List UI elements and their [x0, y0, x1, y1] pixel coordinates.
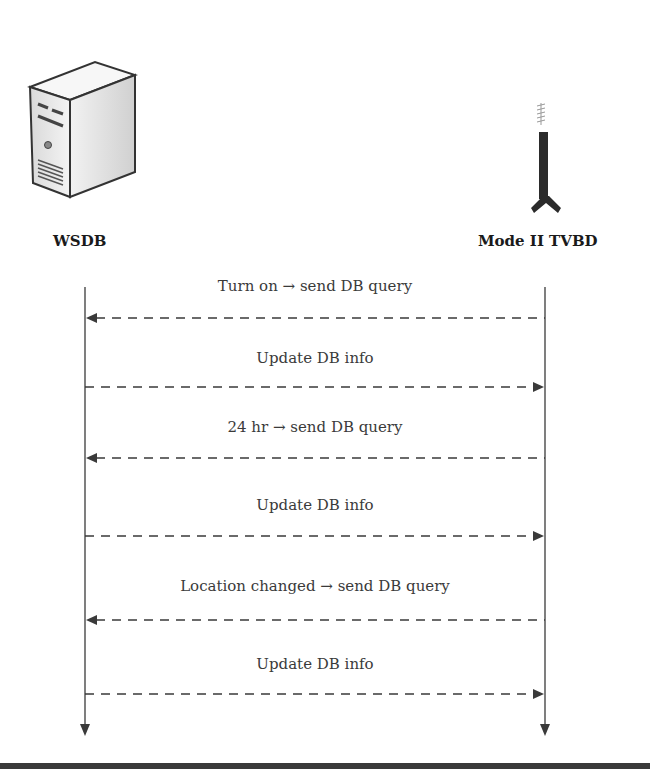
actor-label-wsdb: WSDB	[53, 232, 106, 250]
message-arrow-5	[86, 615, 545, 625]
message-label-2: Update DB info	[85, 349, 545, 367]
message-arrow-4	[85, 531, 544, 541]
bottom-divider	[0, 763, 650, 769]
actor-label-tvbd: Mode II TVBD	[478, 232, 598, 250]
message-arrow-6	[85, 689, 544, 699]
server-icon	[30, 62, 135, 197]
message-label-5: Location changed → send DB query	[85, 577, 545, 595]
antenna-icon	[531, 103, 561, 213]
message-label-4: Update DB info	[85, 496, 545, 514]
message-arrow-2	[85, 382, 544, 392]
lifeline-wsdb-end-arrow	[80, 724, 90, 736]
message-label-1: Turn on → send DB query	[85, 277, 545, 295]
lifeline-tvbd-end-arrow	[540, 724, 550, 736]
message-arrow-3	[86, 453, 545, 463]
message-label-6: Update DB info	[85, 655, 545, 673]
message-label-3: 24 hr → send DB query	[85, 418, 545, 436]
message-arrow-1	[86, 313, 545, 323]
